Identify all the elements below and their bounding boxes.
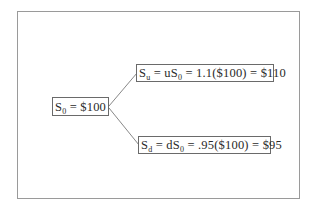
formula-text: = dS: [152, 138, 180, 152]
node-down-price: Sd = dS0 = .95($100) = $95: [138, 136, 271, 154]
tree-edges: [0, 0, 315, 211]
edge-root-down: [109, 108, 139, 145]
edge-root-up: [109, 73, 137, 106]
formula-text: = uS: [150, 66, 178, 80]
node-up-price: Su = uS0 = 1.1($100) = $110: [136, 64, 274, 82]
value-text: = $100: [66, 100, 106, 114]
value-text: = .95($100) = $95: [184, 138, 282, 152]
value-text: = 1.1($100) = $110: [182, 66, 286, 80]
node-root-price: S0 = $100: [52, 97, 109, 116]
